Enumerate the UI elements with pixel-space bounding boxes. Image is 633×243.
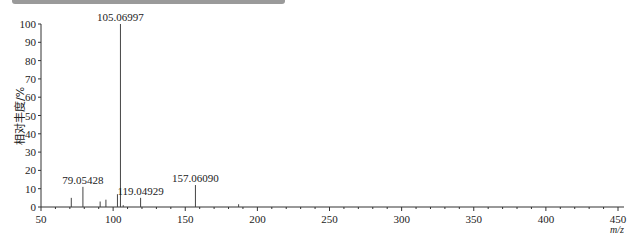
y-tick-label: 30 xyxy=(25,146,37,158)
y-tick-label: 80 xyxy=(25,55,37,67)
y-tick-label: 100 xyxy=(20,18,37,30)
peak-label: 105.06997 xyxy=(97,11,144,23)
x-tick-label: 400 xyxy=(538,213,555,225)
y-tick-label: 90 xyxy=(25,36,37,48)
x-axis-label: m/z xyxy=(610,224,624,235)
y-tick-label: 20 xyxy=(25,164,37,176)
x-tick-label: 300 xyxy=(393,213,410,225)
peak-label: 119.04929 xyxy=(117,185,164,197)
y-tick-label: 10 xyxy=(25,183,37,195)
y-tick-label: 70 xyxy=(25,73,37,85)
x-tick-label: 250 xyxy=(321,213,338,225)
y-axis-label: 相对丰度/% xyxy=(13,87,27,145)
y-tick-label: 0 xyxy=(31,201,37,213)
mass-spectrum-chart: 0102030405060708090100501001502002503003… xyxy=(0,0,633,243)
x-tick-label: 100 xyxy=(105,213,122,225)
peak-label: 79.05428 xyxy=(62,174,104,186)
x-tick-label: 350 xyxy=(466,213,483,225)
x-tick-label: 150 xyxy=(177,213,194,225)
peak-label: 157.06090 xyxy=(172,172,219,184)
x-tick-label: 50 xyxy=(36,213,48,225)
x-tick-label: 200 xyxy=(249,213,266,225)
